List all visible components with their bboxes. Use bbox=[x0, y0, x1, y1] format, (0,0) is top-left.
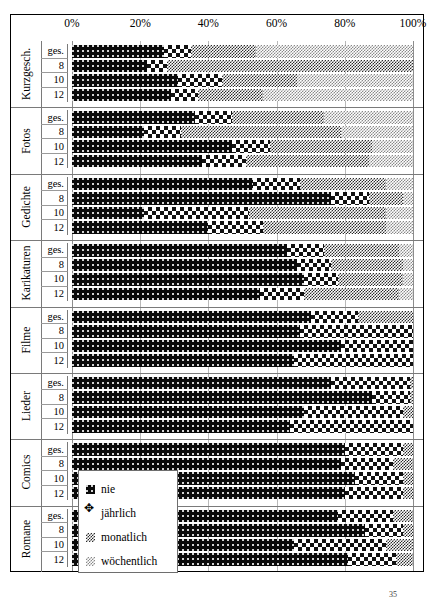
row-label: ges. bbox=[41, 243, 68, 258]
bar-segment-jaehrlich bbox=[345, 443, 403, 456]
chart-group: Kurzgesch.ges.81012 bbox=[11, 41, 423, 108]
stacked-bar bbox=[72, 340, 423, 353]
category-label-text: Lieder bbox=[20, 391, 32, 421]
chart-row: ges. bbox=[41, 177, 423, 192]
legend-item: jährlich bbox=[86, 501, 177, 525]
chart-row: 8 bbox=[41, 191, 423, 206]
chart-group: Comicsges.81012 bbox=[11, 439, 423, 506]
x-axis: 0%20%40%60%80%100% bbox=[11, 15, 423, 41]
legend-swatch-icon bbox=[86, 509, 95, 518]
chart-row: ges. bbox=[41, 442, 423, 457]
row-label: ges. bbox=[41, 44, 68, 59]
bar-segment-jaehrlich bbox=[341, 340, 413, 353]
bar-segment-jaehrlich bbox=[294, 539, 386, 552]
bar-segment-nie bbox=[72, 178, 253, 191]
bar-segment-nie bbox=[72, 406, 304, 419]
chart-row: ges. bbox=[41, 44, 423, 59]
row-label: 12 bbox=[41, 220, 68, 235]
chart-row: 8 bbox=[41, 125, 423, 140]
chart-group: Fotosges.81012 bbox=[11, 107, 423, 174]
bar-segment-woechentlich bbox=[403, 259, 413, 272]
legend-item: monatlich bbox=[86, 525, 177, 549]
bar-segment-monatlich bbox=[246, 155, 369, 168]
bar-segment-monatlich bbox=[222, 74, 297, 87]
bar-segment-jaehrlich bbox=[345, 487, 403, 500]
legend-swatch-icon bbox=[86, 557, 95, 566]
bar-segment-monatlich bbox=[396, 553, 413, 566]
bar-segment-monatlich bbox=[410, 377, 413, 390]
stacked-bar bbox=[72, 377, 423, 390]
chart-row: ges. bbox=[41, 243, 423, 258]
row-label: 8 bbox=[41, 59, 68, 74]
stacked-bar bbox=[72, 45, 423, 58]
bar-segment-jaehrlich bbox=[294, 354, 413, 367]
bar-segment-nie bbox=[72, 221, 208, 234]
chart-row: 12 bbox=[41, 154, 423, 169]
bar-segment-monatlich bbox=[300, 178, 385, 191]
x-tick-label: 100% bbox=[390, 17, 436, 29]
legend-swatch-icon bbox=[86, 533, 95, 542]
stacked-bar bbox=[72, 207, 423, 220]
bar-segment-woechentlich bbox=[386, 207, 413, 220]
chart-row: 12 bbox=[41, 419, 423, 434]
stacked-bar bbox=[72, 126, 423, 139]
row-label: 8 bbox=[41, 457, 68, 472]
legend-item: nie bbox=[86, 477, 177, 501]
row-label: ges. bbox=[41, 110, 68, 125]
bar-segment-jaehrlich bbox=[144, 126, 182, 139]
group-rows: ges.81012 bbox=[41, 107, 423, 173]
bar-segment-jaehrlich bbox=[202, 155, 246, 168]
chart-row: 10 bbox=[41, 206, 423, 221]
stacked-bar bbox=[72, 192, 423, 205]
bar-segment-jaehrlich bbox=[341, 458, 392, 471]
bar-segment-monatlich bbox=[338, 273, 403, 286]
bar-segment-nie bbox=[72, 111, 195, 124]
bar-segment-monatlich bbox=[358, 311, 413, 324]
bar-segment-nie bbox=[72, 140, 232, 153]
bar-segment-nie bbox=[72, 89, 171, 102]
stacked-bar bbox=[72, 178, 423, 191]
chart-row: 10 bbox=[41, 139, 423, 154]
bar-segment-nie bbox=[72, 325, 300, 338]
bar-segment-woechentlich bbox=[324, 111, 413, 124]
category-label: Kurzgesch. bbox=[11, 41, 42, 107]
bar-segment-nie bbox=[72, 192, 331, 205]
legend-label: wöchentlich bbox=[101, 555, 157, 567]
category-label-text: Kurzgesch. bbox=[20, 48, 32, 100]
group-rows: ges.81012 bbox=[41, 373, 423, 439]
bar-segment-monatlich bbox=[403, 406, 413, 419]
legend-item: wöchentlich bbox=[86, 549, 177, 573]
stacked-bar bbox=[72, 311, 423, 324]
bar-segment-woechentlich bbox=[372, 140, 413, 153]
bar-segment-woechentlich bbox=[386, 221, 413, 234]
chart-group: Romaneges.81012 bbox=[11, 506, 423, 572]
bar-segment-monatlich bbox=[167, 60, 413, 73]
stacked-bar bbox=[72, 325, 423, 338]
chart-row: 8 bbox=[41, 324, 423, 339]
category-label: Lieder bbox=[11, 373, 42, 439]
bar-segment-woechentlich bbox=[341, 126, 413, 139]
bar-segment-woechentlich bbox=[256, 45, 413, 58]
chart-row: 10 bbox=[41, 73, 423, 88]
stacked-bar bbox=[72, 111, 423, 124]
bar-segment-nie bbox=[72, 207, 144, 220]
stacked-bar bbox=[72, 406, 423, 419]
stacked-bar bbox=[72, 74, 423, 87]
row-label: 12 bbox=[41, 287, 68, 302]
bar-segment-nie bbox=[72, 311, 311, 324]
legend-label: jährlich bbox=[101, 507, 136, 519]
chart-row: 12 bbox=[41, 287, 423, 302]
bar-segment-nie bbox=[72, 458, 341, 471]
bar-segment-jaehrlich bbox=[260, 288, 304, 301]
category-label: Gedichte bbox=[11, 174, 42, 240]
bar-segment-nie bbox=[72, 288, 260, 301]
bar-segment-monatlich bbox=[304, 288, 399, 301]
row-label: 12 bbox=[41, 419, 68, 434]
bar-segment-woechentlich bbox=[297, 74, 413, 87]
row-label: 10 bbox=[41, 339, 68, 354]
x-tick-label: 40% bbox=[185, 17, 231, 29]
row-label: ges. bbox=[41, 310, 68, 325]
bar-segment-jaehrlich bbox=[300, 325, 413, 338]
category-label: Karikaturen bbox=[11, 240, 42, 306]
stacked-bar bbox=[72, 259, 423, 272]
